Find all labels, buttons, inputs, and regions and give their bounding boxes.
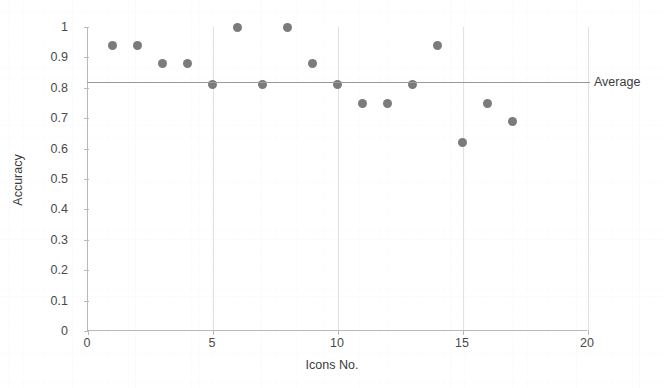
- x-axis-title: Icons No.: [0, 358, 664, 372]
- data-point: [483, 99, 492, 108]
- y-axis-tick: [84, 149, 89, 150]
- x-gridline: [213, 27, 214, 330]
- y-axis-tick: [84, 209, 89, 210]
- x-axis-tick: [88, 330, 89, 335]
- data-point: [458, 138, 467, 147]
- y-axis-tick: [84, 301, 89, 302]
- x-axis-tick-label: 5: [192, 336, 232, 350]
- accuracy-scatter-chart: 00.10.20.30.40.50.60.70.80.9105101520 Av…: [0, 0, 664, 388]
- average-line: [87, 82, 590, 83]
- data-point: [308, 59, 317, 68]
- x-axis-tick: [463, 330, 464, 335]
- y-axis-tick: [84, 240, 89, 241]
- y-axis-tick-label: 0.7: [28, 111, 68, 125]
- x-axis-tick-label: 0: [67, 336, 107, 350]
- y-axis-tick: [84, 270, 89, 271]
- data-point: [433, 41, 442, 50]
- x-gridline: [588, 27, 589, 330]
- x-gridline: [338, 27, 339, 330]
- data-point: [183, 59, 192, 68]
- y-axis-tick: [84, 179, 89, 180]
- y-axis-tick-label: 0.5: [28, 172, 68, 186]
- y-axis-tick-label: 0.6: [28, 142, 68, 156]
- y-axis-tick-label: 1: [28, 20, 68, 34]
- data-point: [283, 23, 292, 32]
- data-point: [233, 23, 242, 32]
- x-axis-tick: [213, 330, 214, 335]
- data-point: [383, 99, 392, 108]
- data-point: [133, 41, 142, 50]
- x-axis-tick: [588, 330, 589, 335]
- x-gridline: [463, 27, 464, 330]
- y-axis-tick-label: 0.4: [28, 202, 68, 216]
- x-axis-tick-label: 20: [567, 336, 607, 350]
- x-axis-tick-label: 15: [442, 336, 482, 350]
- y-axis-tick-label: 0.2: [28, 263, 68, 277]
- x-axis-tick: [338, 330, 339, 335]
- y-axis-tick-label: 0.9: [28, 50, 68, 64]
- y-axis-tick: [84, 88, 89, 89]
- y-axis-tick-label: 0.1: [28, 294, 68, 308]
- data-point: [108, 41, 117, 50]
- plot-area: [87, 27, 587, 331]
- y-axis-tick: [84, 118, 89, 119]
- y-axis-tick-label: 0: [28, 324, 68, 338]
- y-axis-tick-label: 0.3: [28, 233, 68, 247]
- y-axis-tick: [84, 57, 89, 58]
- data-point: [358, 99, 367, 108]
- data-point: [508, 117, 517, 126]
- x-axis-tick-label: 10: [317, 336, 357, 350]
- data-point: [158, 59, 167, 68]
- average-line-label: Average: [594, 75, 640, 89]
- y-axis-title: Accuracy: [11, 154, 25, 205]
- y-axis-tick-label: 0.8: [28, 81, 68, 95]
- y-axis-tick: [84, 27, 89, 28]
